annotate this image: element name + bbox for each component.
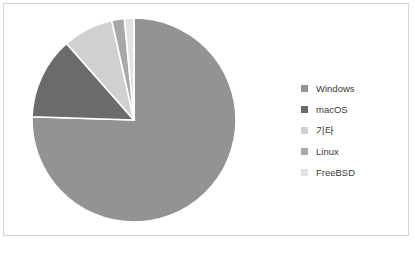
- legend-item-windows[interactable]: Windows: [301, 78, 401, 99]
- plot-area: Windows macOS 기타 Linux FreeBSD: [4, 4, 410, 237]
- legend-item-freebsd[interactable]: FreeBSD: [301, 162, 401, 183]
- pie-chart[interactable]: [29, 13, 239, 227]
- legend-label-freebsd: FreeBSD: [316, 167, 355, 178]
- legend-swatch-icon-freebsd: [301, 169, 308, 176]
- legend-item-macos[interactable]: macOS: [301, 99, 401, 120]
- legend-label-macos: macOS: [316, 104, 348, 115]
- legend-swatch-icon-windows: [301, 85, 308, 92]
- legend-label-linux: Linux: [316, 146, 339, 157]
- chart-frame: Windows macOS 기타 Linux FreeBSD: [3, 3, 409, 236]
- pie-slices: [32, 18, 236, 222]
- legend-swatch-icon-linux: [301, 148, 308, 155]
- legend-item-linux[interactable]: Linux: [301, 141, 401, 162]
- legend-item-other[interactable]: 기타: [301, 120, 401, 141]
- legend-swatch-icon-other: [301, 127, 308, 134]
- chart-legend: Windows macOS 기타 Linux FreeBSD: [301, 78, 401, 183]
- legend-label-other: 기타: [316, 125, 334, 136]
- legend-label-windows: Windows: [316, 83, 355, 94]
- legend-swatch-icon-macos: [301, 106, 308, 113]
